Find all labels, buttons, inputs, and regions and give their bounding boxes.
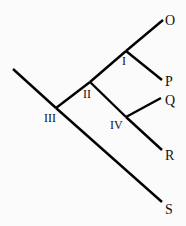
branch-root-III [13, 69, 56, 108]
branch-IV-R [126, 117, 162, 150]
tip-label-P: P [165, 74, 173, 89]
node-label-IV: IV [110, 118, 123, 132]
branch-IV-Q [126, 98, 161, 117]
node-label-I: I [122, 54, 126, 68]
tip-label-Q: Q [165, 93, 175, 108]
cladogram-diagram: O P Q R S I II III IV [0, 0, 186, 226]
branch-I-P [126, 51, 162, 80]
branch-I-O [126, 20, 163, 51]
branch-II-I [90, 51, 126, 82]
branch-III-S [56, 108, 162, 202]
branch-II-IV [90, 82, 126, 117]
node-label-II: II [83, 87, 91, 101]
cladogram-svg: O P Q R S I II III IV [0, 0, 186, 226]
tip-label-R: R [165, 148, 175, 163]
node-label-III: III [44, 111, 56, 125]
tip-label-S: S [165, 202, 173, 217]
tip-label-O: O [165, 13, 175, 28]
